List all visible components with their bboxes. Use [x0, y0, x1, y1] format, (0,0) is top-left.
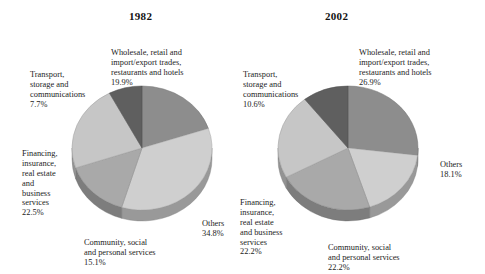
- pie-label-wholesale-2002-value: 26.9%: [359, 78, 459, 88]
- pie-label-wholesale-1982-value: 19.9%: [111, 78, 207, 88]
- pie-label-community-2002-value: 22.2%: [328, 263, 438, 273]
- pie-label-community-1982-value: 15.1%: [84, 258, 194, 268]
- pie-label-transport-2002: Transport, storage and communications 10…: [243, 60, 323, 119]
- pie-label-wholesale-1982-text: Wholesale, retail and import/export trad…: [111, 48, 184, 77]
- chart-title-1982: 1982: [129, 10, 152, 22]
- pie-label-financing-2002: Financing, insurance, real estate and bu…: [240, 188, 302, 267]
- pie-label-financing-2002-text: Financing, insurance, real estate and bu…: [240, 198, 283, 247]
- chart-title-2002: 2002: [325, 10, 348, 22]
- pie-label-transport-1982-text: Transport, storage and communications: [30, 70, 85, 99]
- pie-label-financing-2002-value: 22.2%: [240, 247, 302, 257]
- pie-label-wholesale-1982: Wholesale, retail and import/export trad…: [111, 38, 207, 97]
- pie-label-community-1982: Community, social and personal services …: [84, 228, 194, 274]
- pie-label-transport-1982-value: 7.7%: [30, 100, 110, 110]
- pie-label-financing-1982-value: 22.5%: [22, 208, 80, 218]
- pie-label-transport-2002-text: Transport, storage and communications: [243, 70, 298, 99]
- pie-label-financing-1982: Financing, insurance, real estate and bu…: [22, 139, 80, 228]
- pie-label-others-1982-text: Others: [202, 219, 224, 228]
- pie-label-community-2002: Community, social and personal services …: [328, 233, 438, 274]
- pie-label-transport-1982: Transport, storage and communications 7.…: [30, 60, 110, 119]
- chart-canvas: 1982 Wholesale, retail and import/export…: [0, 0, 485, 274]
- pie-label-others-2002-value: 18.1%: [440, 170, 484, 180]
- pie-label-financing-1982-text: Financing, insurance, real estate and bu…: [22, 149, 58, 208]
- pie-label-others-2002: Others 18.1%: [440, 150, 484, 190]
- pie-label-community-2002-text: Community, social and personal services: [328, 243, 400, 262]
- pie-label-others-2002-text: Others: [440, 160, 462, 169]
- pie-label-community-1982-text: Community, social and personal services: [84, 238, 156, 257]
- pie-label-transport-2002-value: 10.6%: [243, 100, 323, 110]
- pie-label-wholesale-2002-text: Wholesale, retail and import/export trad…: [359, 48, 432, 77]
- pie-label-wholesale-2002: Wholesale, retail and import/export trad…: [359, 38, 459, 97]
